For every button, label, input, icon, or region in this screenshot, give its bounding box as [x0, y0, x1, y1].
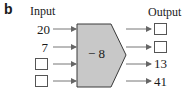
output-blank-box-2[interactable] — [154, 41, 167, 53]
output-value-3: 13 — [154, 56, 167, 72]
machine-operation: − 8 — [88, 46, 105, 62]
output-value-4: 41 — [154, 74, 167, 90]
input-value-1: 20 — [30, 22, 50, 38]
input-blank-box-3[interactable] — [35, 58, 48, 70]
input-blank-box-4[interactable] — [35, 75, 48, 87]
output-blank-box-1[interactable] — [154, 23, 167, 35]
input-value-2: 7 — [30, 40, 48, 56]
